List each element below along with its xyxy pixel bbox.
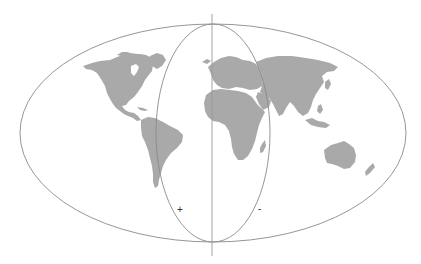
iceland [202, 59, 211, 64]
indonesia [305, 118, 330, 128]
map-canvas [0, 0, 421, 264]
outer-ellipse-boundary [20, 24, 406, 242]
madagascar [260, 140, 266, 153]
europe [208, 56, 263, 90]
landmasses [83, 52, 375, 188]
north-america [83, 53, 153, 121]
plus-label: + [177, 205, 183, 215]
south-america [141, 117, 183, 188]
africa [204, 89, 265, 160]
japan [325, 79, 331, 90]
philippines [317, 104, 323, 114]
minus-label: - [258, 204, 261, 214]
caribbean [137, 107, 148, 111]
new-zealand [365, 163, 375, 176]
australia [324, 141, 356, 169]
world-map-diagram: + - [0, 0, 421, 264]
